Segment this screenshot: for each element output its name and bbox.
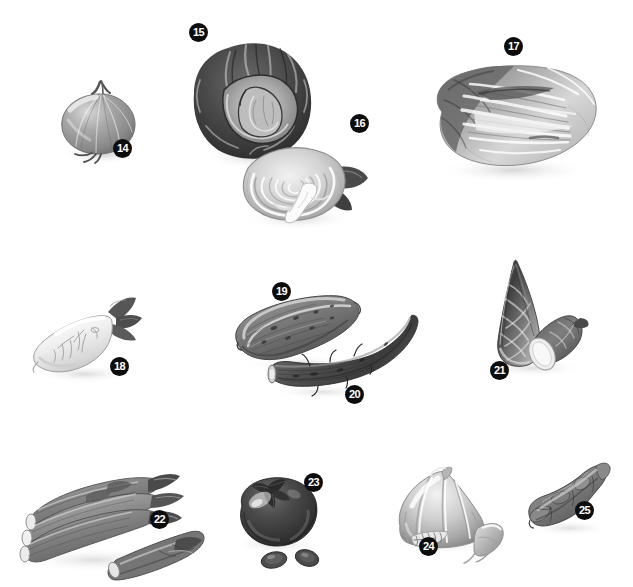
figure-daikon [22,288,148,388]
figure-badge-20: 20 [345,385,364,404]
figure-badge-22: 22 [150,510,169,529]
figure-bamboo-shoot [472,256,596,380]
figure-badge-21: 21 [490,361,509,380]
figure-badge-16: 16 [350,114,369,133]
figure-badge-19: 19 [272,282,291,301]
figure-badge-25: 25 [575,501,594,520]
figure-badge-14: 14 [113,139,132,158]
figure-badge-23: 23 [304,473,323,492]
figure-ginger [518,458,628,548]
figure-asparagus [8,462,228,582]
figure-badge-18: 18 [110,357,129,376]
figure-cabbage-section [226,120,376,232]
figure-burdock [262,310,422,400]
figure-badge-17: 17 [504,37,523,56]
figure-napa-cabbage [418,56,608,186]
figure-badge-24: 24 [419,537,438,556]
figure-badge-15: 15 [189,23,208,42]
figure-garlic [386,462,516,572]
illustration-plate: 14 [0,0,633,587]
figure-eggplant [228,472,348,572]
